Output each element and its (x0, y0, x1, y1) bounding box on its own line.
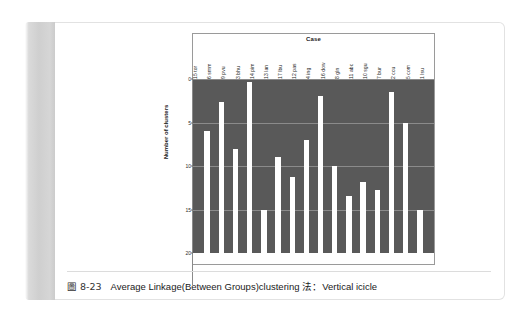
y-tick-mark (191, 79, 193, 80)
case-label-cell: 3 bhu (236, 45, 250, 79)
case-label: 10 sgu (362, 63, 368, 79)
caption-divider (67, 271, 491, 272)
case-label-cell: 16 dow (321, 45, 335, 79)
case-label-cell: 11 abc (349, 45, 363, 79)
icicle-gap (233, 149, 238, 253)
case-label: 9 pvu (220, 66, 226, 79)
icicle-gap (403, 123, 408, 254)
book-page: Case 15 tor6 smm9 pvu3 bhu14 pim13 lan17… (55, 22, 505, 300)
y-gridline (193, 210, 434, 211)
icicle-gap (247, 82, 252, 253)
icicle-gap (290, 177, 295, 253)
case-label-cell: 14 pim (250, 45, 264, 79)
y-gridline (193, 79, 434, 80)
case-label: 2 ccu (390, 67, 396, 79)
icicle-gap (204, 131, 209, 253)
icicle-gap (261, 210, 266, 254)
y-tick-mark (191, 209, 193, 210)
icicle-gap (346, 196, 351, 253)
case-label-cell: 5 com (406, 45, 420, 79)
case-label-cell: 9 pvu (221, 45, 235, 79)
case-label: 4 ing (305, 68, 311, 79)
book-gutter-shadow (25, 22, 56, 300)
scanned-page: Case 15 tor6 smm9 pvu3 bhu14 pim13 lan17… (0, 0, 530, 321)
icicle-gap (219, 102, 224, 253)
icicle-gap (389, 92, 394, 253)
case-label-cell: 8 gln (335, 45, 349, 79)
y-gridline (193, 123, 434, 124)
icicle-chart-figure: Case 15 tor6 smm9 pvu3 bhu14 pim13 lan17… (135, 33, 435, 265)
case-label-cell: 13 lan (264, 45, 278, 79)
caption-separator: ： (312, 281, 322, 292)
case-label: 5 com (405, 65, 411, 79)
case-label: 17 lbu (277, 65, 283, 79)
caption-cjk-word: 法 (302, 281, 312, 292)
icicle-gap (360, 182, 365, 253)
case-label: 14 pim (249, 63, 255, 79)
case-label: 6 smm (206, 64, 212, 80)
chart-title: Case (192, 36, 435, 42)
case-label: 15 tor (192, 66, 198, 79)
caption-figure-number: 圖 8-23 (67, 281, 102, 292)
case-label-cell: 4 ing (306, 45, 320, 79)
icicle-gap (318, 96, 323, 253)
y-axis-title: Number of clusters (163, 87, 169, 177)
y-tick-mark (191, 122, 193, 123)
case-label: 16 dow (320, 62, 326, 79)
case-label: 3 bhu (235, 66, 241, 79)
case-label: 1 lsu (419, 68, 425, 79)
case-label: 8 gln (334, 68, 340, 79)
icicle-plot-area: 05101520 (193, 79, 434, 253)
x-axis-case-labels: 15 tor6 smm9 pvu3 bhu14 pim13 lan17 lbu1… (193, 45, 434, 79)
icicle-gap (304, 140, 309, 253)
case-label-cell: 2 ccu (391, 45, 405, 79)
icicle-gap (332, 166, 337, 253)
case-label: 13 lan (263, 65, 269, 79)
caption-main-text: Average Linkage(Between Groups)clusterin… (111, 281, 303, 292)
y-tick-mark (191, 166, 193, 167)
icicle-gap (375, 190, 380, 253)
icicle-gap (417, 210, 422, 254)
case-label-cell: 1 lsu (420, 45, 434, 79)
figure-caption: 圖 8-23Average Linkage(Between Groups)clu… (67, 279, 493, 293)
case-label: 7 bur (376, 67, 382, 79)
plot-lower-blank-area (193, 253, 434, 264)
y-gridline (193, 166, 434, 167)
case-label: 12 pas (291, 63, 297, 79)
icicle-gap (275, 157, 280, 253)
caption-trailing-text: Vertical icicle (322, 281, 377, 292)
case-label: 11 abc (348, 64, 354, 79)
